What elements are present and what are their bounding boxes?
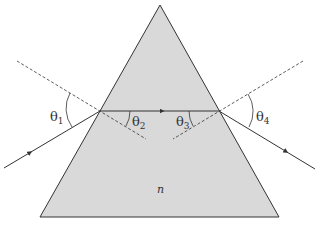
angle-arc-theta1 bbox=[66, 93, 72, 127]
prism-diagram: θ1 θ2 θ3 θ4 n bbox=[0, 0, 315, 226]
label-refractive-index: n bbox=[157, 183, 164, 196]
label-theta1: θ1 bbox=[50, 109, 64, 126]
angle-arc-theta4 bbox=[248, 94, 253, 127]
label-theta4: θ4 bbox=[256, 109, 270, 126]
